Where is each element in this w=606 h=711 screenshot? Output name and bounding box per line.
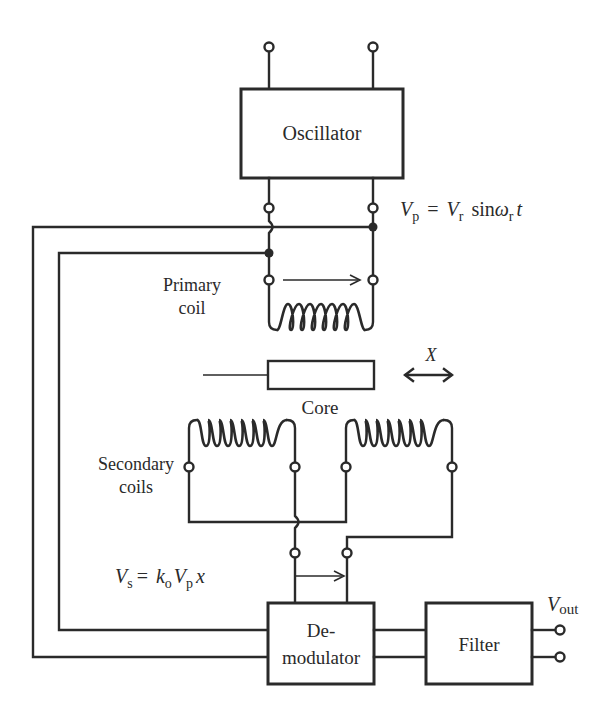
svg-text:Vp=Vrsinωrt: Vp=Vrsinωrt — [400, 198, 523, 224]
vout-label: Vout — [547, 593, 579, 617]
output-terminal-top — [556, 626, 565, 635]
primary-label-line1: Primary — [163, 275, 221, 295]
output-terminal-bottom — [556, 653, 565, 662]
primary-coil — [277, 304, 365, 330]
input-terminal-right — [369, 43, 378, 52]
primary-label-line2: coil — [179, 298, 206, 318]
lvdt-diagram: Oscillator Primary coil Vp=Vrsinωrt — [0, 0, 606, 711]
input-terminal-left — [265, 43, 274, 52]
displacement-label: X — [425, 345, 438, 365]
vp-equation: Vp=Vrsinωrt — [400, 198, 523, 224]
oscillator-input-terminals — [265, 43, 378, 90]
secondary-coil-right — [342, 420, 457, 472]
svg-text:Vs=koVpx: Vs=koVpx — [115, 565, 205, 591]
filter-label: Filter — [458, 634, 500, 655]
primary-circuit — [265, 178, 378, 330]
demodulator-label-line2: modulator — [282, 647, 361, 668]
secondary-label-line1: Secondary — [98, 454, 174, 474]
secondary-label-line2: coils — [119, 477, 153, 497]
demod-filter-wires — [374, 630, 426, 657]
demodulator-block: De- modulator — [268, 603, 374, 684]
demodulator-label-line1: De- — [307, 620, 335, 641]
displacement-arrow: X — [405, 345, 452, 381]
vs-equation: Vs=koVpx — [115, 565, 205, 591]
oscillator-block: Oscillator — [241, 89, 403, 178]
core-body — [268, 361, 374, 389]
core: Core — [203, 361, 374, 418]
secondary-coil-left — [185, 420, 300, 472]
secondary-wiring — [189, 472, 452, 603]
output-terminals: Vout — [532, 593, 579, 662]
oscillator-label: Oscillator — [283, 122, 362, 144]
filter-block: Filter — [426, 603, 532, 684]
core-label: Core — [302, 397, 339, 418]
